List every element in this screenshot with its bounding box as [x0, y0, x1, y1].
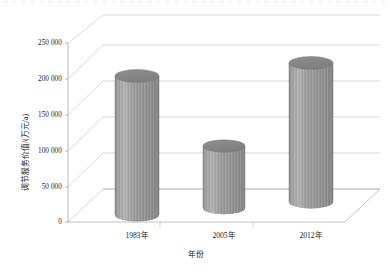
y-tick-label-0: 0: [8, 218, 62, 226]
y-axis-title: 调节服务价值/(万元/a): [19, 114, 30, 191]
bar-2012[interactable]: [289, 57, 333, 209]
bar-2005[interactable]: [203, 140, 245, 214]
y-tick-label-100000: 100 000: [8, 147, 62, 155]
bar-1983[interactable]: [115, 70, 159, 222]
x-tick-label-1983: 1983年: [107, 229, 167, 240]
x-tick-label-2012: 2012年: [281, 229, 341, 240]
y-tick-label-250000: 250 000: [8, 39, 62, 47]
y-tick-label-50000: 50 000: [8, 183, 62, 191]
x-axis-title: 年份: [0, 248, 392, 259]
x-tick-marks: [160, 222, 253, 228]
y-tick-label-150000: 150 000: [8, 111, 62, 119]
x-tick-label-2005: 2005年: [194, 229, 254, 240]
y-tick-marks: [65, 43, 68, 222]
y-tick-label-200000: 200 000: [8, 75, 62, 83]
chart-container: 250 000 200 000 150 000 100 000 50 000 0…: [0, 0, 392, 274]
